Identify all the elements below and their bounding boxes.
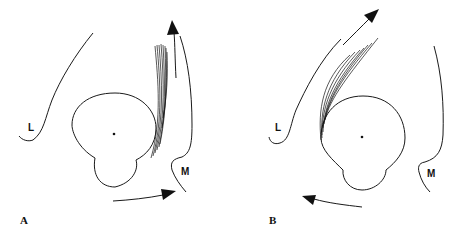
lower-arrowhead-b xyxy=(302,195,316,205)
upward-arrowhead-a xyxy=(167,20,179,35)
panel-label-a: A xyxy=(20,214,28,226)
upward-arrow-shaft-a xyxy=(174,32,176,78)
panel-b: L M B xyxy=(269,9,443,226)
medial-label-a: M xyxy=(181,166,189,177)
globe-a xyxy=(72,93,156,187)
lateral-label-a: L xyxy=(28,122,34,133)
medial-label-b: M xyxy=(427,168,435,179)
panel-label-b: B xyxy=(269,214,277,226)
lower-arrowhead-a xyxy=(161,189,176,200)
upward-arrow-shaft-b xyxy=(343,19,369,45)
globe-center-a xyxy=(113,133,116,136)
lower-arrow-shaft-b xyxy=(314,199,362,207)
diagram-canvas: L M A L M B xyxy=(0,0,464,240)
lower-arrow-shaft-a xyxy=(113,195,163,201)
globe-b xyxy=(321,96,405,190)
panel-a: L M A xyxy=(19,20,192,226)
globe-center-b xyxy=(361,136,364,139)
upward-arrowhead-b xyxy=(364,9,379,23)
lateral-label-b: L xyxy=(275,122,281,133)
